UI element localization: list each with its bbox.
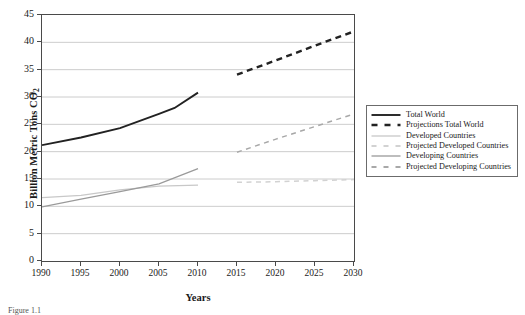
series-line-4 <box>42 169 198 207</box>
legend-item: Projected Developed Countries <box>371 141 513 151</box>
plot-svg <box>42 15 354 261</box>
legend-item: Projected Developing Countries <box>371 161 513 171</box>
x-tick-mark <box>197 262 198 266</box>
x-tick-label: 2025 <box>294 268 334 278</box>
x-tick-label: 2015 <box>216 268 256 278</box>
legend-swatch-icon <box>371 141 401 151</box>
y-tick-label: 10 <box>4 200 34 210</box>
chart-legend: Total WorldProjections Total WorldDevelo… <box>366 105 518 177</box>
y-tick-label: 5 <box>4 228 34 238</box>
legend-swatch-icon <box>371 131 401 141</box>
legend-item-label: Total World <box>406 110 445 120</box>
plot-area <box>41 14 355 262</box>
x-tick-mark <box>236 262 237 266</box>
series-line-1 <box>237 31 354 74</box>
legend-item-label: Developed Countries <box>406 131 475 141</box>
legend-item: Developing Countries <box>371 151 513 161</box>
legend-item: Total World <box>371 110 513 120</box>
legend-item-label: Projected Developing Countries <box>406 162 511 172</box>
series-line-5 <box>237 114 354 152</box>
x-tick-label: 2030 <box>333 268 373 278</box>
legend-item-label: Projections Total World <box>406 120 484 130</box>
legend-item-label: Developing Countries <box>406 151 478 161</box>
x-tick-label: 2000 <box>99 268 139 278</box>
legend-item-label: Projected Developed Countries <box>406 141 508 151</box>
y-tick-label: 35 <box>4 64 34 74</box>
series-line-3 <box>237 180 354 183</box>
y-tick-label: 15 <box>4 173 34 183</box>
x-tick-label: 2005 <box>138 268 178 278</box>
x-tick-label: 1995 <box>60 268 100 278</box>
x-tick-mark <box>158 262 159 266</box>
x-tick-mark <box>80 262 81 266</box>
x-tick-label: 2020 <box>255 268 295 278</box>
x-tick-mark <box>314 262 315 266</box>
legend-swatch-icon <box>371 120 401 130</box>
legend-item: Developed Countries <box>371 131 513 141</box>
figure-caption: Figure 1.1 <box>8 306 41 315</box>
y-tick-label: 30 <box>4 91 34 101</box>
y-tick-label: 0 <box>4 255 34 265</box>
y-tick-label: 20 <box>4 146 34 156</box>
x-tick-label: 1990 <box>21 268 61 278</box>
legend-swatch-icon <box>371 162 401 172</box>
y-tick-label: 25 <box>4 118 34 128</box>
x-tick-mark <box>353 262 354 266</box>
x-tick-mark <box>275 262 276 266</box>
legend-swatch-icon <box>371 151 401 161</box>
x-tick-label: 2010 <box>177 268 217 278</box>
y-tick-label: 40 <box>4 36 34 46</box>
x-axis-title: Years <box>40 292 356 303</box>
x-tick-mark <box>119 262 120 266</box>
legend-item: Projections Total World <box>371 120 513 130</box>
legend-swatch-icon <box>371 110 401 120</box>
y-tick-label: 45 <box>4 9 34 19</box>
series-line-0 <box>42 93 198 145</box>
x-tick-mark <box>41 262 42 266</box>
